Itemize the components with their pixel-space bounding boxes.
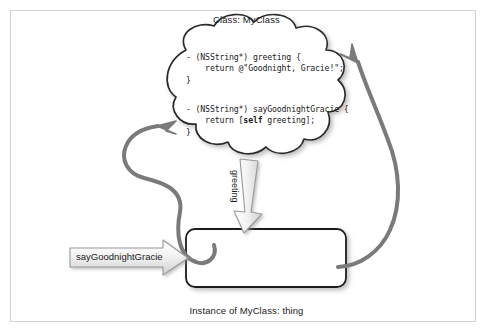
- method-saygoodnightgracie-body-suffix: greeting];: [262, 115, 315, 125]
- method-saygoodnightgracie-close: }: [186, 127, 191, 137]
- method-greeting-code: - (NSString*) greeting { return @"Goodni…: [186, 52, 344, 86]
- instance-caption: Instance of MyClass: thing: [0, 305, 493, 316]
- method-greeting-body: return @"Goodnight, Gracie!";: [186, 63, 344, 73]
- keyword-self: self: [243, 115, 262, 125]
- method-greeting-close: }: [186, 75, 191, 85]
- method-greeting-signature: - (NSString*) greeting {: [186, 52, 301, 62]
- saygoodnightgracie-arrow-label: sayGoodnightGracie: [76, 251, 163, 262]
- greeting-arrow-label: greeting: [230, 170, 240, 203]
- method-saygoodnightgracie-body-prefix: return [: [186, 115, 243, 125]
- method-saygoodnightgracie-signature: - (NSString*) sayGoodnightGracie {: [186, 104, 349, 114]
- diagram-figure: Class: MyClass Instance of MyClass: thin…: [0, 0, 493, 334]
- diagram-canvas: [0, 0, 493, 334]
- method-saygoodnightgracie-code: - (NSString*) sayGoodnightGracie { retur…: [186, 104, 349, 138]
- class-caption: Class: MyClass: [0, 14, 493, 25]
- curved-arrow-instance-to-greeting: [338, 44, 398, 267]
